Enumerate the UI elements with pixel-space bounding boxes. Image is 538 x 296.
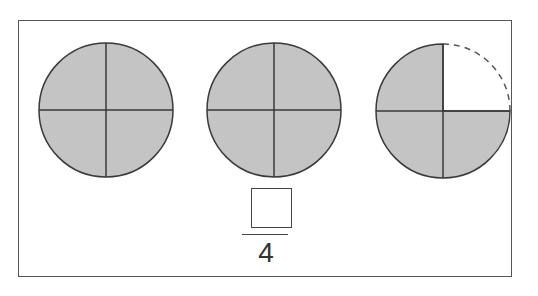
numerator-answer-box[interactable] <box>251 188 292 228</box>
circle-3-three-quarters <box>376 44 510 178</box>
circle-2-whole <box>207 43 341 177</box>
denominator: 4 <box>244 236 288 270</box>
fraction-bar <box>242 234 288 235</box>
missing-quarter-dashed-arc <box>443 44 510 111</box>
circle-1-whole <box>39 43 173 177</box>
